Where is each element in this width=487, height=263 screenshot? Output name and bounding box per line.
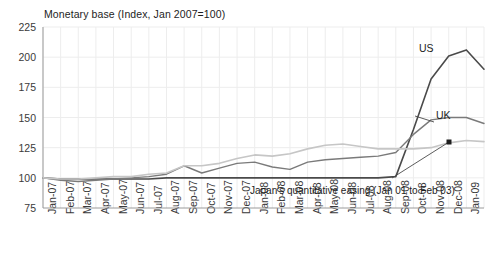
japan-qe-arrowhead (447, 140, 452, 145)
series-label-us: US (419, 43, 434, 54)
japan-qe-annotation: Japan's quantitative easing (Jan 01 to F… (250, 186, 455, 196)
plot-area (0, 0, 487, 263)
monetary-base-line-chart: Monetary base (Index, Jan 2007=100) 7510… (0, 0, 487, 263)
series-line-us (43, 50, 484, 179)
series-line-japan (43, 140, 484, 179)
series-label-uk: UK (436, 110, 451, 121)
series-line-uk (43, 118, 484, 182)
